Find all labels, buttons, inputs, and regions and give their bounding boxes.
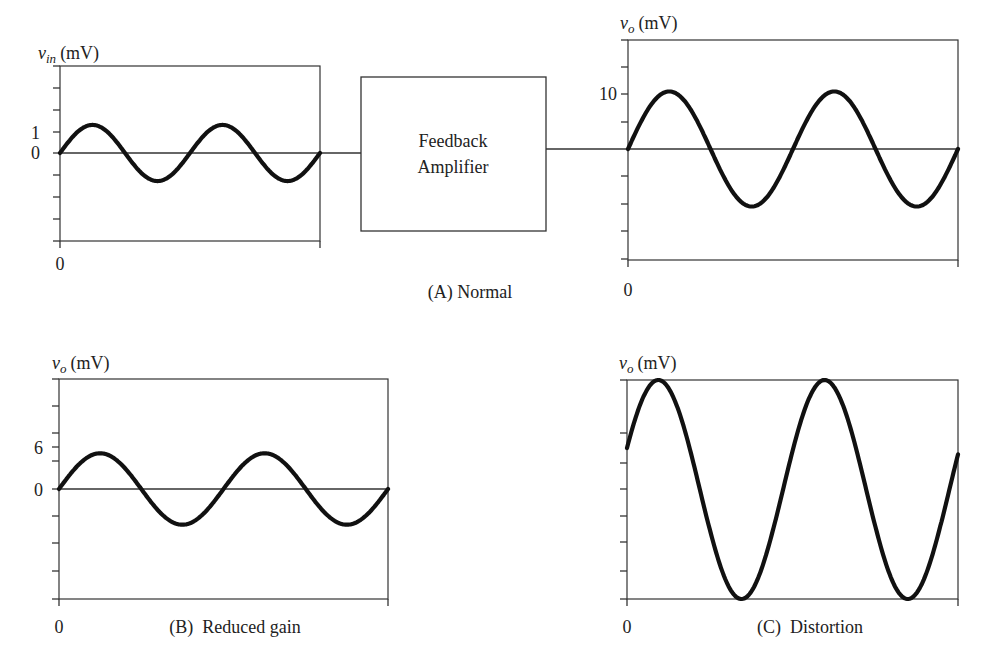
panel-c-frame xyxy=(627,380,958,599)
panel-c-waveform xyxy=(627,380,958,599)
caption-c-distortion: (C) Distortion xyxy=(757,617,863,638)
amplifier-label-line2: Amplifier xyxy=(418,157,489,177)
panel-b-reduced-gain: vo(mV) 6 0 0 xyxy=(34,353,388,637)
amplifier-box xyxy=(361,77,546,231)
panel-a-input-ytick-0: 0 xyxy=(31,143,40,163)
panel-a-output-xtick-0: 0 xyxy=(624,280,633,300)
panel-b-ytick-6: 6 xyxy=(34,438,43,458)
panel-b-ytick-0: 0 xyxy=(34,480,43,500)
feedback-amplifier-figure: vin(mV) 1 0 0 Feedback Amplifier (A) Nor… xyxy=(0,0,986,666)
feedback-amplifier-block: Feedback Amplifier xyxy=(361,77,628,231)
panel-a-output: vo(mV) 10 0 xyxy=(599,13,958,300)
caption-b-reduced-gain: (B) Reduced gain xyxy=(169,617,300,638)
panel-a-input-ytick-1: 1 xyxy=(31,123,40,143)
panel-b-xtick-0: 0 xyxy=(55,617,64,637)
panel-a-input-xtick-0: 0 xyxy=(56,254,65,274)
panel-a-output-ylabel: vo(mV) xyxy=(620,13,678,36)
panel-c-distortion: vo(mV) 0 xyxy=(619,353,958,637)
caption-a-normal: (A) Normal xyxy=(428,282,512,303)
panel-a-output-ytick-10: 10 xyxy=(599,84,617,104)
panel-a-input: vin(mV) 1 0 0 xyxy=(31,43,361,274)
panel-b-ylabel: vo(mV) xyxy=(52,353,110,376)
panel-a-input-ylabel: vin(mV) xyxy=(38,43,99,66)
amplifier-label-line1: Feedback xyxy=(419,131,488,151)
panel-c-ylabel: vo(mV) xyxy=(619,353,677,376)
panel-c-yticks xyxy=(620,380,958,606)
panel-c-xtick-0: 0 xyxy=(623,617,632,637)
